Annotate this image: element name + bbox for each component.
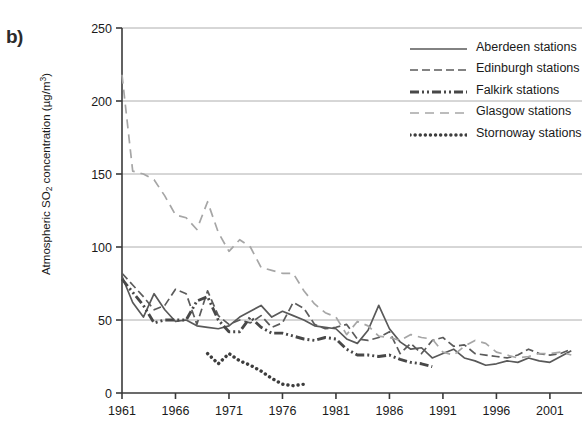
y-tick-label: 250 bbox=[91, 22, 112, 36]
data-series-line bbox=[208, 354, 304, 386]
legend-swatch-dashed bbox=[410, 62, 467, 74]
legend-label: Falkirk stations bbox=[476, 83, 559, 97]
legend-label: Aberdeen stations bbox=[476, 40, 577, 54]
figure-panel-b: b) Atmospheric SO2 concentration (µg/m3)… bbox=[0, 0, 588, 428]
x-tick-label: 1966 bbox=[162, 404, 190, 418]
x-tick-label: 1971 bbox=[215, 404, 243, 418]
x-tick-label: 1996 bbox=[483, 404, 511, 418]
y-axis-ticks: 050100150200250 bbox=[91, 22, 122, 401]
legend-swatch-solid bbox=[410, 41, 467, 53]
x-tick-label: 1976 bbox=[269, 404, 297, 418]
y-tick-label: 150 bbox=[91, 168, 112, 182]
x-axis-ticks: 196119661971197619811986199119962001 bbox=[108, 393, 564, 418]
legend-item: Glasgow stations bbox=[410, 101, 582, 123]
data-series-line bbox=[122, 276, 571, 365]
legend-swatch-dashdotdot bbox=[410, 84, 467, 96]
legend-item: Falkirk stations bbox=[410, 79, 582, 101]
x-tick-label: 1961 bbox=[108, 404, 136, 418]
legend-label: Glasgow stations bbox=[476, 104, 571, 118]
x-tick-label: 2001 bbox=[536, 404, 564, 418]
y-tick-label: 100 bbox=[91, 241, 112, 255]
legend: Aberdeen stationsEdinburgh stationsFalki… bbox=[410, 36, 582, 144]
data-series-line bbox=[122, 279, 432, 367]
y-tick-label: 200 bbox=[91, 95, 112, 109]
legend-label: Edinburgh stations bbox=[476, 61, 580, 75]
legend-item: Aberdeen stations bbox=[410, 36, 582, 58]
y-tick-label: 50 bbox=[98, 314, 112, 328]
x-tick-label: 1981 bbox=[322, 404, 350, 418]
legend-swatch-longdash bbox=[410, 105, 467, 117]
legend-label: Stornoway stations bbox=[476, 126, 582, 140]
y-tick-label: 0 bbox=[105, 387, 112, 401]
x-tick-label: 1991 bbox=[429, 404, 457, 418]
legend-item: Edinburgh stations bbox=[410, 58, 582, 80]
legend-item: Stornoway stations bbox=[410, 122, 582, 144]
x-tick-label: 1986 bbox=[376, 404, 404, 418]
legend-swatch-dotted bbox=[410, 127, 467, 139]
